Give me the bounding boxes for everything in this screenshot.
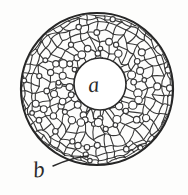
cell-edge [66, 147, 76, 149]
cell-edge [152, 66, 153, 76]
cell-edge [33, 65, 37, 73]
cell-edge [150, 131, 152, 135]
vertex-node [48, 69, 54, 75]
vertex-node [50, 113, 56, 119]
cell-edge [66, 132, 77, 134]
cell-edge [144, 40, 151, 47]
vertex-node [74, 101, 81, 108]
cell-edge [127, 43, 128, 50]
cell-edge [97, 18, 99, 22]
cell-edge [77, 132, 86, 133]
cell-edge [68, 21, 70, 22]
cell-edge [127, 35, 136, 43]
cell-edge [150, 100, 156, 110]
cell-edge [117, 25, 126, 30]
cell-edge [72, 149, 76, 156]
vertex-node [88, 158, 93, 163]
vertex-node [84, 45, 91, 52]
cell-edge [110, 134, 120, 135]
cell-edge [64, 147, 67, 153]
cell-edge [126, 141, 130, 145]
vertex-node [70, 139, 75, 144]
cell-edge [31, 73, 33, 83]
cell-edge [114, 145, 126, 147]
cell-edge [31, 83, 32, 93]
cell-edge [124, 35, 127, 44]
vertex-node [72, 67, 77, 72]
cell-edge [116, 157, 125, 159]
cell-edge [70, 34, 80, 38]
cell-edge [105, 145, 114, 147]
cell-edge [164, 61, 167, 63]
vertex-node [128, 71, 136, 79]
cell-edge [107, 152, 115, 153]
vertex-node [37, 74, 42, 79]
cell-edge [62, 123, 66, 132]
cell-edge [37, 131, 44, 136]
cell-edge [135, 129, 144, 140]
cell-edge [86, 14, 87, 20]
central-region-circle [74, 58, 126, 110]
cell-edge [130, 129, 135, 141]
vertex-node [67, 61, 73, 67]
vertex-node [51, 91, 58, 98]
vertex-node [53, 129, 59, 135]
cell-edge [96, 153, 107, 157]
vertex-node [77, 119, 85, 127]
cell-edge [136, 35, 144, 40]
cell-edge [37, 50, 40, 55]
cell-edge [50, 137, 51, 144]
cell-edge [51, 47, 58, 54]
cell-edge [109, 23, 117, 26]
vertex-node [154, 83, 161, 90]
cell-edge [131, 146, 137, 150]
cell-edge [106, 23, 109, 30]
cell-edge [63, 28, 70, 30]
cell-edge [49, 144, 50, 146]
cell-edge [110, 135, 113, 146]
cell-edge [46, 39, 52, 48]
vertex-node [143, 115, 150, 122]
cell-edge [57, 41, 62, 48]
cell-edge [57, 47, 65, 50]
cell-edge [162, 86, 165, 96]
vertex-node [142, 78, 147, 83]
vertex-node [124, 146, 130, 152]
vertex-node [106, 38, 113, 45]
vertex-node [98, 46, 103, 51]
vertex-node [36, 117, 42, 123]
vertex-node [62, 109, 67, 114]
cell-edge [156, 57, 159, 65]
vertex-node [103, 126, 108, 131]
vertex-node [129, 101, 137, 109]
cell-edge [61, 132, 66, 140]
vertex-node [43, 58, 48, 63]
cell-edge [128, 54, 133, 64]
cell-edge [165, 105, 167, 114]
cell-edge [131, 23, 132, 26]
cell-edge [120, 134, 126, 144]
cell-edge [107, 157, 114, 159]
cell-edge [126, 27, 131, 30]
cell-edge [154, 114, 159, 123]
cell-edge [156, 55, 162, 56]
vertex-node [53, 61, 59, 67]
vertex-node [94, 118, 102, 126]
vertex-node [137, 67, 144, 74]
cell-edge [63, 37, 71, 40]
cell-edge [142, 124, 150, 132]
cell-edge [162, 76, 165, 86]
cell-edge [143, 104, 145, 113]
cell-edge [104, 16, 105, 20]
vertex-node [66, 84, 73, 91]
cell-edge [42, 41, 46, 48]
cell-edge [133, 143, 137, 146]
cell-edge [145, 33, 146, 35]
cell-edge [93, 134, 104, 140]
cell-edge [30, 64, 37, 65]
cell-edge [69, 31, 70, 38]
cell-edge [163, 104, 168, 105]
cell-edge [28, 64, 30, 73]
cell-edge [98, 161, 99, 164]
cell-edge [86, 132, 94, 140]
